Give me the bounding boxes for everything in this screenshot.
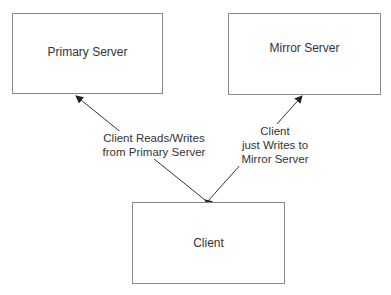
- edge-label-mirror-line1: Client: [225, 124, 325, 138]
- client-label: Client: [193, 236, 224, 250]
- mirror-server-label: Mirror Server: [269, 41, 339, 55]
- edge-label-primary-line1: Client Reads/Writes: [94, 131, 214, 145]
- mirror-server-node: Mirror Server: [228, 13, 381, 95]
- edge-label-primary-line2: from Primary Server: [94, 145, 214, 159]
- primary-server-node: Primary Server: [12, 13, 163, 94]
- client-node: Client: [132, 202, 285, 284]
- edge-label-mirror: Client just Writes to Mirror Server: [225, 124, 325, 166]
- primary-server-label: Primary Server: [47, 45, 127, 59]
- edge-label-mirror-line3: Mirror Server: [225, 152, 325, 166]
- edge-label-mirror-line2: just Writes to: [225, 138, 325, 152]
- edge-label-primary: Client Reads/Writes from Primary Server: [94, 131, 214, 159]
